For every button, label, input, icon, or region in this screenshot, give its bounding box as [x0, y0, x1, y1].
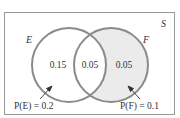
intersection-value: 0.05 — [82, 60, 99, 70]
p-e-annotation: P(E) = 0.2 — [14, 101, 54, 112]
venn-diagram: S E F 0.15 0.05 0.05 P(E) = 0.2 P(F) = 0… — [0, 0, 180, 118]
universe-label: S — [161, 18, 166, 29]
f-only-value: 0.05 — [116, 60, 133, 70]
set-f-label: F — [142, 34, 150, 45]
p-f-annotation: P(F) = 0.1 — [120, 101, 159, 112]
set-e-label: E — [25, 34, 32, 45]
e-only-value: 0.15 — [50, 60, 67, 70]
